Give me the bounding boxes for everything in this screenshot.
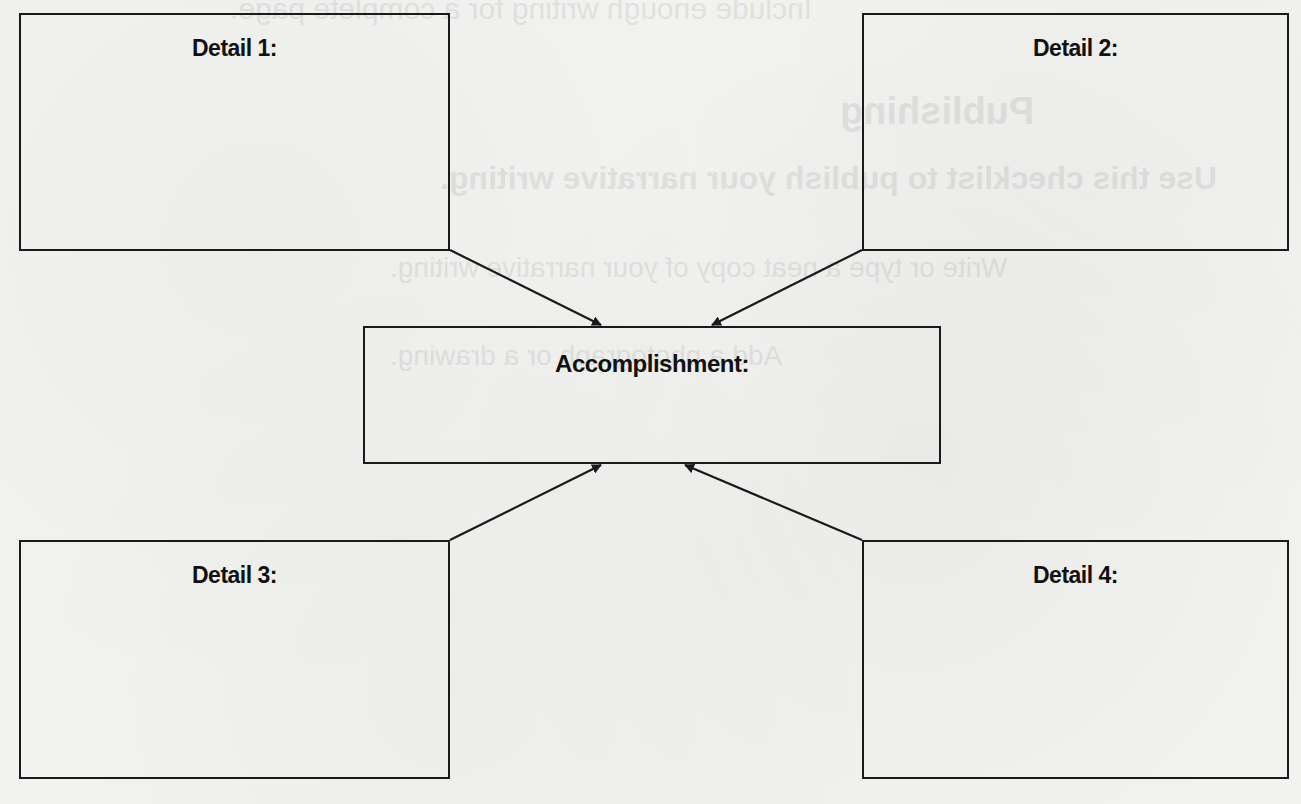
detail-4-label: Detail 4: xyxy=(864,562,1287,589)
detail-1-label: Detail 1: xyxy=(21,35,448,62)
detail-3-label: Detail 3: xyxy=(21,562,448,589)
detail-3-write-area[interactable] xyxy=(29,602,440,769)
detail-1-write-area[interactable] xyxy=(29,75,440,241)
detail-4-box: Detail 4: xyxy=(862,540,1289,779)
detail-1-box: Detail 1: xyxy=(19,13,450,251)
accomplishment-label: Accomplishment: xyxy=(365,350,939,378)
detail-2-write-area[interactable] xyxy=(872,75,1279,241)
accomplishment-write-area[interactable] xyxy=(373,388,931,454)
accomplishment-box: Accomplishment: xyxy=(363,326,941,464)
detail-2-box: Detail 2: xyxy=(862,13,1289,251)
detail-4-write-area[interactable] xyxy=(872,602,1279,769)
detail-3-box: Detail 3: xyxy=(19,540,450,779)
detail-2-label: Detail 2: xyxy=(864,35,1287,62)
